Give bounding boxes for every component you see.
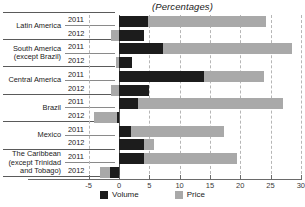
category-label-line: Mexico <box>38 131 61 139</box>
bar-segment-price <box>148 16 266 27</box>
category-label-line: (except Brazil) <box>13 53 61 61</box>
year-label-2012: 2012 <box>68 56 84 65</box>
legend-swatch-price-icon <box>175 191 183 199</box>
bar-segment-volume <box>119 43 163 54</box>
legend-swatch-volume-icon <box>100 191 108 199</box>
year-label-2012: 2012 <box>68 111 84 120</box>
bar-segment-volume <box>119 85 149 96</box>
bar-segment-volume <box>119 126 131 137</box>
chart-title: (Percentages) <box>0 1 305 12</box>
x-tick-label-20: 20 <box>236 181 244 190</box>
x-axis-line <box>28 179 302 180</box>
x-tick-25 <box>271 175 272 179</box>
bar-segment-volume <box>117 112 119 123</box>
bar-segment-price <box>94 112 116 123</box>
year-separator <box>65 107 115 108</box>
gridline-25 <box>271 15 272 179</box>
bar-segment-volume <box>119 139 144 150</box>
x-tick-30 <box>301 175 302 179</box>
bar-segment-volume <box>119 98 138 109</box>
bar-segment-price <box>204 71 264 82</box>
x-tick-10 <box>180 175 181 179</box>
year-separator <box>65 162 115 163</box>
chart-legend: Volume Price <box>0 190 305 199</box>
category-separator <box>3 66 115 67</box>
year-label-2011: 2011 <box>68 15 84 24</box>
x-tick-label-5: 5 <box>147 181 151 190</box>
category-label: The Caribbean(except Trinidadand Tobago) <box>8 150 61 175</box>
bar-segment-volume <box>119 153 144 164</box>
bar-segment-volume <box>119 30 144 41</box>
year-label-2012: 2012 <box>68 138 84 147</box>
bar-segment-price <box>144 139 154 150</box>
x-tick-label-10: 10 <box>175 181 183 190</box>
year-label-2012: 2012 <box>68 29 84 38</box>
x-tick-5 <box>149 175 150 179</box>
category-separator <box>3 12 115 13</box>
year-label-2011: 2011 <box>68 152 84 161</box>
x-tick-label-0: 0 <box>117 181 121 190</box>
year-label-2012: 2012 <box>68 166 84 175</box>
category-label-line: Central America <box>8 76 61 84</box>
bar-segment-price <box>138 98 282 109</box>
gridline-30 <box>301 15 302 179</box>
year-separator <box>65 135 115 136</box>
bar-segment-price <box>163 43 292 54</box>
bar-segment-price <box>131 126 224 137</box>
category-label: South America(except Brazil) <box>13 45 61 61</box>
category-label-line: and Tobago) <box>8 167 61 175</box>
category-separator <box>3 94 115 95</box>
x-tick-0 <box>119 175 120 179</box>
bar-segment-price <box>144 153 236 164</box>
x-tick-label--5: -5 <box>85 181 92 190</box>
category-label: Mexico <box>38 131 61 139</box>
category-label: Latin America <box>16 22 61 30</box>
gridline-20 <box>240 15 241 179</box>
legend-item-volume: Volume <box>100 190 139 199</box>
category-axis: Latin America20112012South America(excep… <box>0 13 120 181</box>
year-label-2011: 2011 <box>68 125 84 134</box>
year-label-2011: 2011 <box>68 97 84 106</box>
legend-item-price: Price <box>175 190 205 199</box>
x-tick-label-25: 25 <box>266 181 274 190</box>
x-tick-15 <box>210 175 211 179</box>
category-label-line: Brazil <box>43 104 61 112</box>
category-separator <box>3 39 115 40</box>
gridline--5 <box>89 15 90 179</box>
bar-segment-volume <box>119 71 204 82</box>
category-separator <box>3 176 115 177</box>
year-label-2012: 2012 <box>68 84 84 93</box>
bar-segment-volume <box>119 16 148 27</box>
bar-segment-volume <box>110 167 119 178</box>
bar-segment-price <box>111 30 119 41</box>
year-separator <box>65 53 115 54</box>
legend-label-volume: Volume <box>112 190 139 199</box>
x-tick-label-15: 15 <box>206 181 214 190</box>
chart-container: (Percentages) Latin America20112012South… <box>0 0 305 207</box>
legend-label-price: Price <box>187 190 205 199</box>
year-label-2011: 2011 <box>68 42 84 51</box>
category-label: Brazil <box>43 104 61 112</box>
chart-title-text: (Percentages) <box>92 1 213 12</box>
year-separator <box>65 25 115 26</box>
bar-segment-volume <box>119 57 132 68</box>
year-label-2011: 2011 <box>68 70 84 79</box>
category-label-line: Latin America <box>16 22 61 30</box>
bar-segment-price <box>100 167 110 178</box>
bar-segment-price <box>111 85 119 96</box>
x-tick--5 <box>89 175 90 179</box>
category-label: Central America <box>8 76 61 84</box>
plot-area <box>119 15 302 179</box>
x-tick-label-30: 30 <box>297 181 305 190</box>
year-separator <box>65 80 115 81</box>
x-tick-20 <box>240 175 241 179</box>
